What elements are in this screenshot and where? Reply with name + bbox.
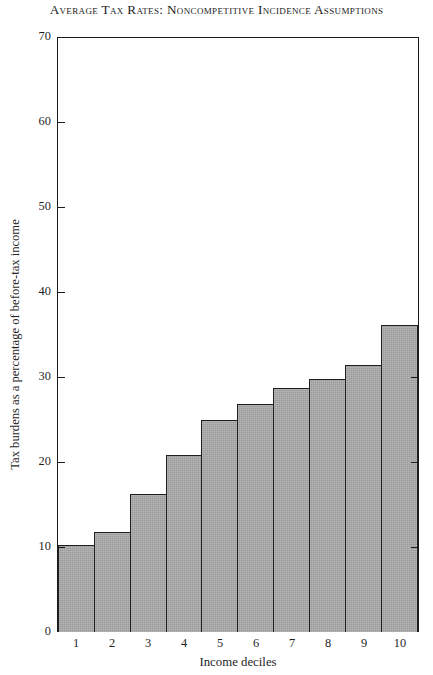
y-tick-30 — [57, 377, 65, 378]
chart-title: Average Tax Rates: Noncompetitive Incide… — [0, 2, 433, 18]
bar-decile-6 — [237, 404, 274, 632]
bar-decile-4 — [166, 455, 203, 632]
chart-figure: Average Tax Rates: Noncompetitive Incide… — [0, 0, 433, 675]
y-tick-label-10: 10 — [5, 539, 51, 554]
bar-decile-10 — [381, 325, 418, 632]
y-tick-label-30: 30 — [5, 369, 51, 384]
x-tick-label-6: 6 — [238, 636, 274, 651]
y-tick-right-20 — [411, 462, 419, 463]
bar-series — [58, 38, 418, 632]
x-axis-tick-labels: 12345678910 — [58, 636, 418, 651]
y-tick-label-20: 20 — [5, 454, 51, 469]
y-tick-50 — [57, 207, 65, 208]
bar-decile-9 — [345, 365, 382, 632]
bar-decile-7 — [273, 388, 310, 632]
y-tick-label-60: 60 — [5, 114, 51, 129]
bar-decile-2 — [94, 532, 131, 632]
bar-decile-8 — [309, 379, 346, 632]
x-tick-label-7: 7 — [274, 636, 310, 651]
y-tick-right-10 — [411, 547, 419, 548]
bar-decile-5 — [201, 420, 238, 632]
y-tick-label-0: 0 — [5, 624, 51, 639]
x-tick-label-8: 8 — [310, 636, 346, 651]
y-tick-60 — [57, 122, 65, 123]
bar-decile-1 — [58, 545, 95, 632]
y-tick-label-40: 40 — [5, 284, 51, 299]
y-tick-right-30 — [411, 377, 419, 378]
y-tick-10 — [57, 547, 65, 548]
bar-decile-3 — [130, 494, 167, 632]
y-tick-label-70: 70 — [5, 29, 51, 44]
x-axis-label: Income deciles — [57, 655, 419, 670]
x-tick-label-9: 9 — [346, 636, 382, 651]
x-tick-label-4: 4 — [166, 636, 202, 651]
x-tick-label-10: 10 — [382, 636, 418, 651]
y-tick-20 — [57, 462, 65, 463]
x-tick-label-1: 1 — [58, 636, 94, 651]
x-tick-label-2: 2 — [94, 636, 130, 651]
y-tick-40 — [57, 292, 65, 293]
x-tick-label-5: 5 — [202, 636, 238, 651]
y-tick-label-50: 50 — [5, 199, 51, 214]
x-tick-label-3: 3 — [130, 636, 166, 651]
